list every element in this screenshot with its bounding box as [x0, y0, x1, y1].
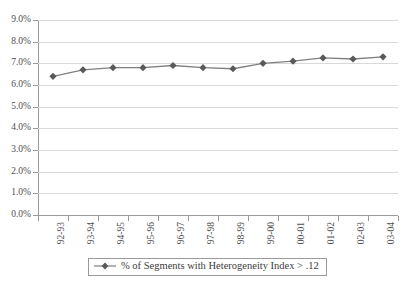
- x-axis-tick-label: 94-95: [117, 222, 127, 244]
- x-axis-tick-label: 03-04: [387, 222, 397, 244]
- data-point-marker: [319, 54, 326, 61]
- y-axis-tick: [33, 150, 38, 151]
- x-axis-labels: 92-9393-9494-9595-9696-9797-9898-9999-00…: [38, 222, 398, 258]
- x-axis-tick-label: 92-93: [57, 222, 67, 244]
- x-axis-tick: [68, 216, 69, 221]
- y-axis-tick-label: 4.0%: [11, 124, 31, 134]
- x-axis-tick-label: 01-02: [327, 222, 337, 244]
- y-axis-tick-label: 3.0%: [11, 145, 31, 155]
- plot-area: [38, 20, 398, 215]
- y-axis-tick: [33, 85, 38, 86]
- y-axis-tick: [33, 20, 38, 21]
- series-polyline: [53, 57, 383, 77]
- data-point-marker: [349, 55, 356, 62]
- y-axis-tick: [33, 107, 38, 108]
- data-point-marker: [49, 73, 56, 80]
- x-axis-tick-label: 96-97: [177, 222, 187, 244]
- y-axis-tick-label: 8.0%: [11, 37, 31, 47]
- x-axis-tick: [128, 216, 129, 221]
- x-axis-tick: [158, 216, 159, 221]
- data-point-marker: [139, 64, 146, 71]
- line-chart: 0.0%1.0%2.0%3.0%4.0%5.0%6.0%7.0%8.0%9.0%…: [0, 0, 406, 284]
- y-axis-tick: [33, 172, 38, 173]
- data-point-marker: [289, 58, 296, 65]
- y-axis-tick: [33, 128, 38, 129]
- x-axis-tick-label: 97-98: [207, 222, 217, 244]
- y-axis-tick: [33, 193, 38, 194]
- x-axis-tick-label: 00-01: [297, 222, 307, 244]
- x-axis-tick-label: 99-00: [267, 222, 277, 244]
- x-axis-tick: [368, 216, 369, 221]
- x-axis-tick: [398, 216, 399, 221]
- legend-marker-diamond-icon: [94, 261, 116, 271]
- y-axis-tick-label: 5.0%: [11, 102, 31, 112]
- data-point-marker: [379, 53, 386, 60]
- legend-label: % of Segments with Heterogeneity Index >…: [121, 261, 319, 272]
- x-axis-tick-label: 95-96: [147, 222, 157, 244]
- data-point-marker: [109, 64, 116, 71]
- data-point-marker: [259, 60, 266, 67]
- y-axis-tick-label: 2.0%: [11, 167, 31, 177]
- data-point-marker: [169, 62, 176, 69]
- y-axis-tick-label: 9.0%: [11, 15, 31, 25]
- x-axis-tick: [188, 216, 189, 221]
- y-axis-tick-label: 1.0%: [11, 189, 31, 199]
- y-axis-tick-label: 6.0%: [11, 80, 31, 90]
- y-axis-tick: [33, 42, 38, 43]
- data-point-marker: [229, 65, 236, 72]
- x-axis-tick-label: 93-94: [87, 222, 97, 244]
- y-axis-labels: 0.0%1.0%2.0%3.0%4.0%5.0%6.0%7.0%8.0%9.0%: [0, 0, 36, 284]
- data-point-marker: [79, 66, 86, 73]
- x-axis-tick: [248, 216, 249, 221]
- x-axis-tick: [38, 216, 39, 221]
- y-axis-tick-label: 7.0%: [11, 59, 31, 69]
- x-axis-tick: [338, 216, 339, 221]
- x-axis-tick: [218, 216, 219, 221]
- series-line-heterogeneity-index: [38, 20, 398, 215]
- x-axis-tick-label: 02-03: [357, 222, 367, 244]
- y-axis-tick: [33, 63, 38, 64]
- y-axis-tick-label: 0.0%: [11, 210, 31, 220]
- x-axis-tick: [278, 216, 279, 221]
- x-axis-tick: [308, 216, 309, 221]
- x-axis-tick-label: 98-99: [237, 222, 247, 244]
- x-axis-tick: [98, 216, 99, 221]
- data-point-marker: [199, 64, 206, 71]
- chart-legend: % of Segments with Heterogeneity Index >…: [88, 258, 327, 276]
